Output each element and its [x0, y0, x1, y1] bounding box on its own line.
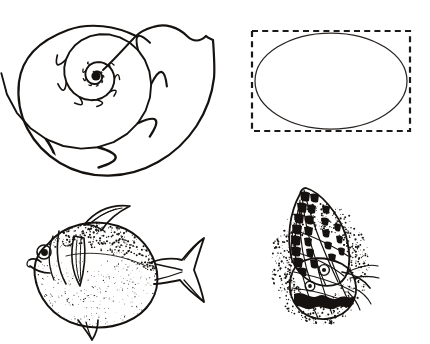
stipple-dot [47, 222, 49, 224]
stipple-dot [80, 318, 81, 319]
stipple-dot [42, 240, 44, 242]
stipple-dot [98, 276, 100, 278]
stipple-dot [321, 312, 323, 314]
stipple-dot [101, 273, 103, 275]
stipple-dot [69, 325, 70, 326]
stipple-dot [122, 269, 124, 271]
stipple-dot [106, 269, 108, 271]
stipple-dot [42, 322, 43, 323]
stipple-dot [120, 318, 121, 319]
stipple-dot [156, 218, 158, 220]
stipple-dot [87, 295, 88, 296]
stipple-dot [36, 230, 37, 231]
stipple-dot [132, 301, 133, 302]
stipple-dot [289, 274, 291, 276]
stipple-dot [61, 245, 62, 246]
stipple-dot [67, 245, 69, 247]
stipple-dot [29, 239, 31, 241]
stipple-dot [118, 235, 119, 236]
stipple-dot [157, 224, 159, 226]
stipple-dot [359, 270, 360, 271]
stipple-dot [153, 238, 155, 240]
stipple-dot [50, 224, 52, 226]
stipple-dot [114, 267, 115, 268]
stipple-dot [73, 261, 74, 262]
stipple-dot [152, 267, 154, 269]
stipple-dot [118, 263, 119, 264]
stipple-dot [31, 223, 32, 224]
stipple-dot [279, 269, 280, 270]
stipple-dot [136, 328, 137, 329]
stipple-dot [97, 289, 98, 290]
stipple-dot [119, 277, 121, 279]
stipple-dot [109, 257, 110, 258]
stipple-dot [133, 327, 134, 328]
stipple-dot [327, 313, 329, 315]
stipple-dot [38, 227, 39, 228]
stipple-dot [101, 265, 102, 266]
stipple-dot [161, 291, 162, 292]
stipple-dot [103, 257, 105, 259]
stipple-dot [32, 244, 33, 245]
stipple-dot [31, 255, 33, 257]
stipple-dot [351, 235, 352, 236]
stipple-dot [130, 251, 132, 253]
stipple-dot [77, 322, 78, 323]
stipple-dot [151, 330, 152, 331]
stipple-dot [66, 278, 67, 279]
stipple-dot [93, 238, 94, 239]
stipple-dot [284, 241, 286, 243]
stipple-dot [132, 306, 133, 307]
stipple-dot [106, 271, 107, 272]
stipple-dot [133, 242, 135, 244]
stipple-dot [363, 239, 364, 240]
stipple-dot [99, 308, 100, 309]
stipple-dot [128, 271, 129, 272]
stipple-dot [146, 278, 147, 279]
stipple-dot [149, 306, 150, 307]
stipple-dot [64, 262, 66, 264]
stipple-dot [134, 293, 135, 294]
stipple-dot [78, 304, 79, 305]
stipple-dot [68, 223, 69, 224]
stipple-dot [86, 267, 88, 269]
stipple-dot [113, 262, 115, 264]
stipple-dot [283, 263, 284, 264]
stipple-dot [77, 293, 78, 294]
stipple-dot [119, 252, 120, 253]
stipple-dot [27, 218, 29, 220]
stipple-dot [347, 285, 348, 286]
stipple-dot [137, 249, 138, 250]
stipple-dot [72, 273, 73, 274]
stipple-dot [140, 327, 141, 328]
stipple-dot [141, 255, 142, 256]
stipple-dot [281, 291, 282, 292]
stipple-dot [132, 240, 133, 241]
stipple-dot [126, 218, 128, 220]
stipple-dot [126, 269, 127, 270]
stipple-dot [99, 316, 100, 317]
stipple-dot [47, 265, 48, 266]
stipple-dot [117, 289, 118, 290]
stipple-dot [151, 241, 153, 243]
stipple-dot [351, 260, 352, 261]
stipple-dot [88, 280, 89, 281]
stipple-dot [337, 312, 339, 314]
stipple-dot [137, 269, 139, 271]
stipple-dot [143, 265, 144, 266]
stipple-dot [125, 253, 126, 254]
stipple-dot [68, 283, 69, 284]
stipple-dot [86, 232, 87, 233]
stipple-dot [131, 244, 132, 245]
stipple-dot [160, 298, 161, 299]
stipple-dot [352, 257, 353, 258]
stipple-dot [317, 312, 318, 313]
stipple-dot [110, 260, 112, 262]
stipple-dot [295, 282, 296, 283]
stipple-dot [312, 312, 314, 314]
stipple-dot [145, 256, 147, 258]
stipple-dot [106, 237, 107, 238]
stipple-dot [361, 257, 362, 258]
stipple-dot [298, 312, 299, 313]
stipple-dot [117, 246, 118, 247]
